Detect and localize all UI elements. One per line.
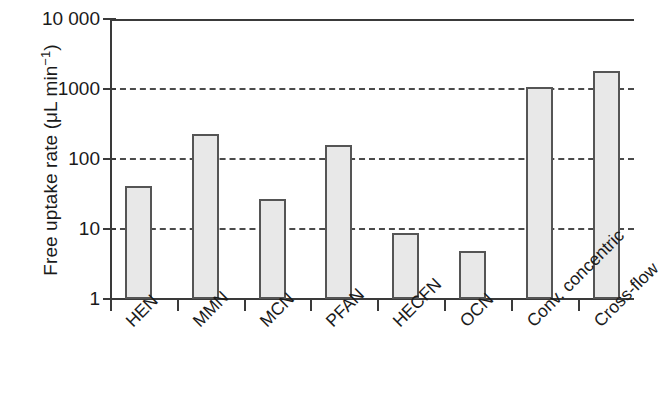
x-axis-label-hen: HEN	[123, 292, 162, 331]
x-axis-label-cross-flow: Cross-flow	[591, 260, 662, 331]
x-axis-label-mmn: MMN	[190, 288, 232, 330]
x-axis-label-ocn: OCN	[457, 291, 497, 331]
x-axis-label-pfan: PFAN	[323, 286, 368, 331]
x-axis-label-mcn: MCN	[257, 290, 298, 331]
x-axis-label-hecfn: HECFN	[390, 275, 445, 330]
